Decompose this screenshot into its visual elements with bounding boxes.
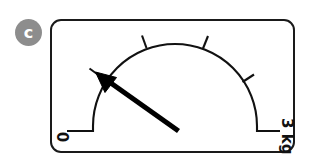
gauge-needle-shaft [108,81,179,131]
gauge-min-label: 0 [55,132,73,142]
gauge-needle-arrowhead [96,72,117,93]
gauge-scale-arc [67,44,280,131]
gauge-tick-3 [203,36,208,49]
gauge-tick-2 [142,36,147,49]
gauge-drawing: 0 3 kg [0,0,311,167]
gauge-max-label: 3 kg [278,118,296,154]
gauge-tick-marks [90,36,255,83]
gauge-needle [96,72,179,131]
figure-root: c 0 3 kg [0,0,311,167]
gauge-tick-4 [243,75,255,83]
